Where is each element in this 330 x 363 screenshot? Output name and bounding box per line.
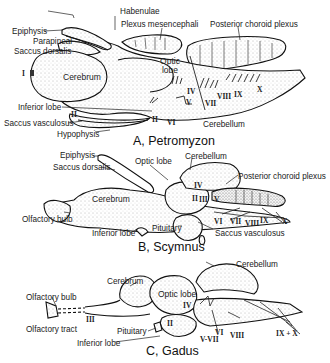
nerve-VIII-a: VIII (217, 93, 231, 101)
caption-a: A, Petromyzon (133, 134, 215, 148)
nerve-II-a-left: II (71, 111, 77, 119)
label-plexus-mesencephali: Plexus mesencephali (121, 20, 198, 29)
label-posterior-choroid-plexus-a: Posterior choroid plexus (210, 20, 298, 29)
label-epiphysis-a: Epiphysis (12, 27, 47, 36)
nerve-X-a: X (257, 86, 262, 94)
nerve-II-a: II (152, 116, 158, 124)
nerve-IX-b: IX (260, 217, 268, 225)
nerve-V-VII-c: V-VII (200, 336, 219, 344)
nerve-VIII-c: VIII (230, 332, 244, 340)
nerve-IV-b: IV (194, 182, 202, 190)
label-saccus-vasculosus-a: Saccus vasculosus (4, 119, 74, 128)
label-optic-lobe-c: Optic lobe (158, 290, 196, 299)
label-habenulae: Habenulae (120, 7, 160, 16)
nerve-X-b: X (282, 218, 287, 226)
label-optic-lobe-b: Optic lobe (135, 157, 172, 166)
label-cerebellum-a: Cerebellum (203, 120, 245, 129)
label-epiphysis-b: Epiphysis (60, 151, 95, 160)
nerve-IV-c: IV (183, 302, 191, 310)
nerve-VII-b: VII (230, 218, 241, 226)
label-saccus-dorsalis-a: Saccus dorsalis (14, 47, 71, 56)
label-optic-lobe-a: Optic lobe (155, 57, 185, 75)
nerve-IX-a: IX (234, 91, 242, 99)
label-posterior-choroid-plexus-b: Posterior choroid plexus (238, 172, 326, 181)
label-olfactory-bulb-c: Olfactory bulb (26, 293, 77, 302)
label-cerebrum-a: Cerebrum (63, 73, 101, 82)
panel-c-gadus (46, 264, 302, 336)
nerve-V-a: V (186, 99, 191, 107)
label-inferior-lobe-a: Inferior lobe (18, 103, 61, 112)
label-pituitary-c: Pituitary (117, 327, 147, 336)
nerve-VII-a: VII (205, 100, 216, 108)
nerve-VI-a: VI (167, 119, 175, 127)
label-olfactory-bulb-b: Olfactory bulb (22, 215, 73, 224)
nerve-III-b: III (199, 196, 208, 204)
nerve-II-c: II (167, 320, 173, 328)
nerve-VI-b: VI (214, 218, 222, 226)
label-saccus-dorsalis-b: Saccus dorsalis (53, 163, 110, 172)
label-inferior-lobe-c: Inferior lobe (77, 339, 120, 348)
label-pituitary-b: Pituitary (152, 224, 182, 233)
nerve-IV-a: IV (187, 88, 195, 96)
label-inferior-lobe-b: Inferior lobe (92, 229, 135, 238)
nerve-I-a: I (22, 70, 25, 78)
nerve-V-b: V (214, 196, 219, 204)
nerve-VIII-b: VIII (245, 220, 259, 228)
nerve-VI-c: VI (215, 329, 223, 337)
nerve-II-b: II (192, 195, 198, 203)
label-cerebellum-c: Cerebellum (236, 260, 278, 269)
caption-b: B, Scymnus (138, 240, 205, 254)
label-olfactory-tract: Olfactory tract (26, 325, 77, 334)
label-hypophysis: Hypophysis (57, 130, 99, 139)
label-cerebrum-c: Cerebrum (107, 277, 143, 286)
nerve-IX-X-c: IX + X (276, 330, 298, 338)
caption-c: C, Gadus (146, 344, 199, 358)
label-parapineal: Parapineal (33, 37, 72, 46)
label-saccus-vasculosus-b: Saccus vasculosus (215, 229, 285, 238)
nerve-III-c: III (86, 316, 95, 324)
label-cerebellum-b: Cerebellum (185, 152, 227, 161)
label-cerebrum-b: Cerebrum (92, 195, 130, 204)
